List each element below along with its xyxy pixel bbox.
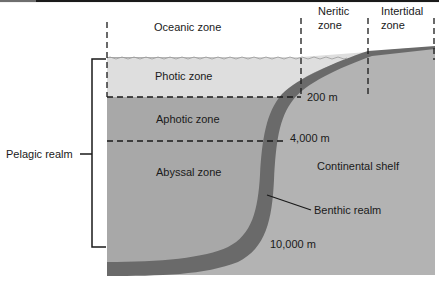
benthic-realm-label: Benthic realm xyxy=(314,204,381,217)
aphotic-zone-label: Aphotic zone xyxy=(156,113,220,126)
pelagic-realm-label: Pelagic realm xyxy=(6,148,73,161)
continental-shelf-label: Continental shelf xyxy=(317,160,399,173)
abyssal-zone-label: Abyssal zone xyxy=(156,166,221,179)
depth-4000m-label: 4,000 m xyxy=(290,132,330,145)
pelagic-bracket xyxy=(92,59,106,247)
neritic-zone-label-line1: Neritic xyxy=(318,5,349,18)
oceanic-zone-label: Oceanic zone xyxy=(154,21,221,34)
depth-200m-label: 200 m xyxy=(307,91,338,104)
ocean-zones-diagram xyxy=(0,0,439,281)
depth-10000m-label: 10,000 m xyxy=(270,238,316,251)
neritic-zone-label-line2: zone xyxy=(318,19,342,32)
intertidal-zone-label-line2: zone xyxy=(381,19,405,32)
photic-zone-label: Photic zone xyxy=(155,70,212,83)
intertidal-zone-label-line1: Intertidal xyxy=(381,5,423,18)
